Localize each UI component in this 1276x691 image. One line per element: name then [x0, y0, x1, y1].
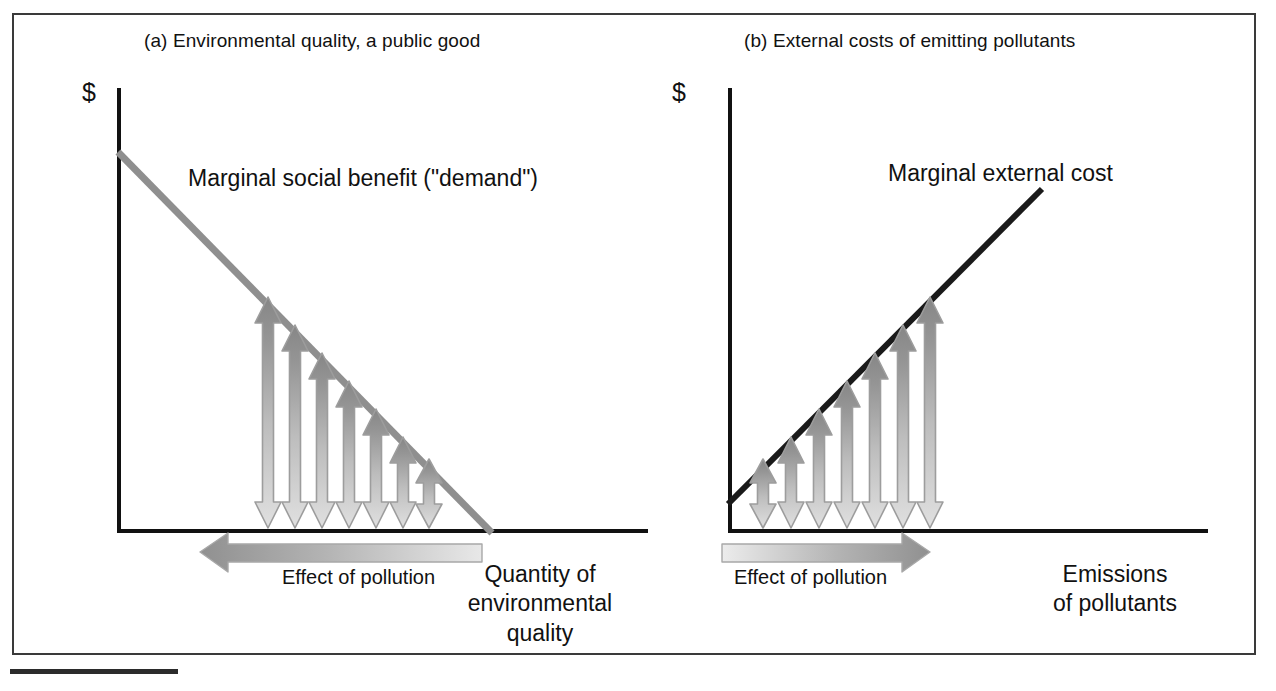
panel-a-effect-label: Effect of pollution [282, 566, 435, 589]
panel-b-x-caption-line-1: Emissions [1000, 560, 1230, 589]
panel-a-title: (a) Environmental quality, a public good [144, 30, 480, 52]
panel-a-x-axis-caption: Quantity of environmental quality [420, 560, 660, 648]
panel-b-effect-label: Effect of pollution [734, 566, 887, 589]
panel-b-y-axis-label: $ [672, 78, 686, 107]
figure-frame [12, 13, 1256, 655]
panel-a-y-axis-label: $ [82, 78, 96, 107]
figure-container: (a) Environmental quality, a public good… [0, 0, 1276, 691]
panel-a-x-caption-line-3: quality [420, 619, 660, 648]
panel-b-x-caption-line-2: of pollutants [1000, 589, 1230, 618]
bottom-rule [10, 669, 178, 674]
panel-a-x-caption-line-2: environmental [420, 589, 660, 618]
panel-a-curve-label: Marginal social benefit ("demand") [188, 165, 538, 192]
panel-b-x-axis-caption: Emissions of pollutants [1000, 560, 1230, 619]
panel-a-x-caption-line-1: Quantity of [420, 560, 660, 589]
panel-b-title: (b) External costs of emitting pollutant… [744, 30, 1075, 52]
panel-b-curve-label: Marginal external cost [888, 160, 1113, 187]
